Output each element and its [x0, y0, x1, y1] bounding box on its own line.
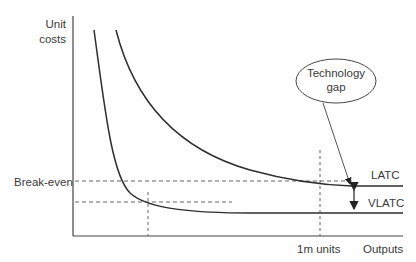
callout-line2: gap	[296, 80, 376, 94]
cost-curve-diagram: Unit costs Break-even 1m units Outputs L…	[0, 0, 416, 262]
callout-pointer	[323, 103, 350, 184]
vlatc-label: VLATC	[368, 196, 404, 210]
y-axis-label: Unit costs	[36, 17, 66, 46]
break-even-label: Break-even	[14, 175, 73, 189]
callout-text: Technology gap	[296, 66, 376, 94]
y-axis-label-line2: costs	[36, 32, 66, 46]
latc-label: LATC	[371, 168, 400, 182]
callout-line1: Technology	[296, 66, 376, 80]
latc-curve	[116, 30, 403, 186]
x-axis-label: Outputs	[363, 242, 403, 256]
x-marker-label: 1m units	[297, 242, 340, 256]
y-axis-label-line1: Unit	[36, 17, 66, 31]
